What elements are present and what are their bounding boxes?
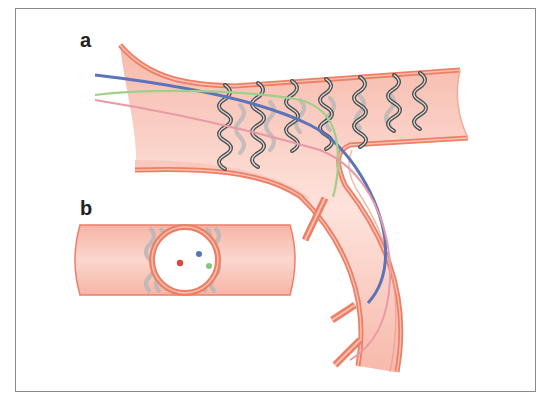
green-wire-dot: [206, 263, 212, 269]
panel-b-cross-section: [75, 225, 295, 295]
blue-wire-dot: [196, 251, 202, 257]
red-wire-dot: [177, 260, 183, 266]
stent-illustration: [0, 0, 553, 405]
